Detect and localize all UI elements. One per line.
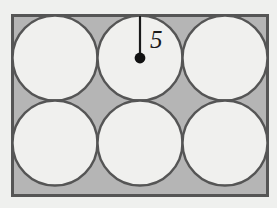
circle-bottom-middle bbox=[98, 101, 183, 186]
circle-center-dot bbox=[135, 53, 146, 64]
circle-bottom-left bbox=[13, 101, 98, 186]
circle-top-left bbox=[13, 16, 98, 101]
geometry-figure: 5 bbox=[0, 0, 277, 208]
circle-top-right bbox=[183, 16, 268, 101]
radius-length-label: 5 bbox=[150, 26, 163, 53]
circle-bottom-right bbox=[183, 101, 268, 186]
figure-canvas: 5 bbox=[0, 0, 277, 208]
